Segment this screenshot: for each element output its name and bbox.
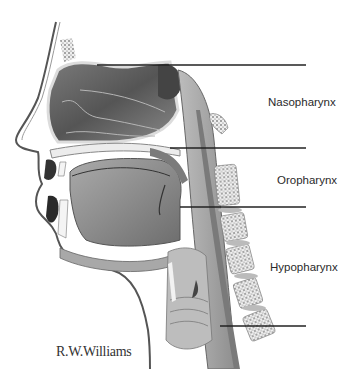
label-oropharynx: Oropharynx: [277, 174, 337, 186]
larynx: [166, 248, 212, 349]
anatomy-diagram: Nasopharynx Oropharynx Hypopharynx R.W.W…: [0, 0, 351, 369]
artist-signature: R.W.Williams: [56, 344, 131, 360]
tongue: [70, 148, 188, 246]
label-hypopharynx: Hypopharynx: [270, 261, 338, 273]
label-nasopharynx: Nasopharynx: [268, 96, 336, 108]
